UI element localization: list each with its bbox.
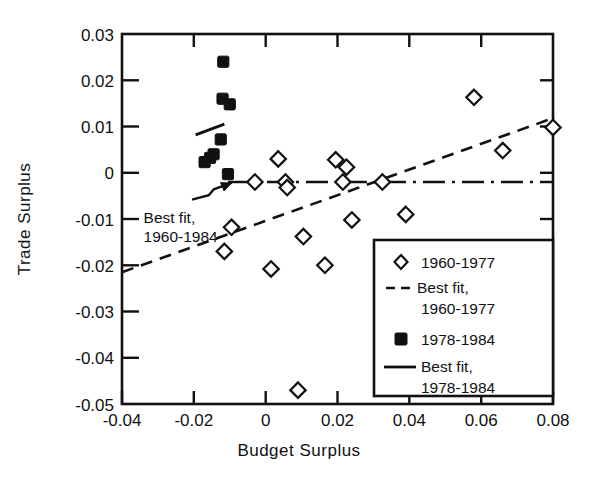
data-point-square bbox=[215, 134, 226, 145]
legend-glyph-filled-square bbox=[395, 333, 407, 345]
y-axis-title: Trade Surplus bbox=[15, 163, 34, 276]
y-tick-label-0.02: 0.02 bbox=[81, 72, 114, 91]
legend: 1960-1977 Best fit, 1960-1977 1978-1984 … bbox=[374, 240, 553, 396]
x-tick-label-0.08: 0.08 bbox=[536, 411, 569, 430]
data-point-square bbox=[224, 99, 235, 110]
y-tick-label-0.03: 0.03 bbox=[81, 26, 114, 45]
annotation-line2: 1960-1984 bbox=[144, 228, 219, 245]
legend-label-1960-1977: 1960-1977 bbox=[421, 254, 495, 271]
y-tick-label-0.01: 0.01 bbox=[81, 118, 114, 137]
x-axis-title: Budget Surplus bbox=[237, 441, 360, 460]
x-tick-label-0: 0 bbox=[261, 411, 270, 430]
legend-label-bestfit-1960-1977-line1: Best fit, bbox=[417, 279, 469, 296]
x-tick-label-0.06: 0.06 bbox=[465, 411, 498, 430]
x-tick-label-0.04: 0.04 bbox=[393, 411, 426, 430]
data-point-square bbox=[199, 157, 210, 168]
data-point-square bbox=[222, 169, 233, 180]
annotation-line1: Best fit, bbox=[144, 209, 196, 226]
y-tick-label--0.05: -0.05 bbox=[75, 396, 114, 415]
y-tick-label--0.03: -0.03 bbox=[75, 303, 114, 322]
legend-label-1978-1984: 1978-1984 bbox=[421, 331, 496, 348]
legend-label-bestfit-1978-1984-line2: 1978-1984 bbox=[421, 379, 496, 396]
x-tick-label--0.02: -0.02 bbox=[174, 411, 213, 430]
y-tick-label--0.01: -0.01 bbox=[75, 211, 114, 230]
y-tick-label--0.04: -0.04 bbox=[75, 349, 114, 368]
legend-label-bestfit-1978-1984-line1: Best fit, bbox=[421, 358, 473, 375]
y-tick-label--0.02: -0.02 bbox=[75, 257, 114, 276]
data-point-square bbox=[218, 56, 229, 67]
legend-label-bestfit-1960-1977-line2: 1960-1977 bbox=[421, 300, 495, 317]
y-tick-label-0: 0 bbox=[105, 164, 114, 183]
figure-scatter-budget-vs-trade-surplus: -0.04 -0.02 0 0.02 0.04 0.06 0.08 0.03 0… bbox=[0, 0, 600, 486]
x-tick-label-0.02: 0.02 bbox=[321, 411, 354, 430]
chart-canvas: -0.04 -0.02 0 0.02 0.04 0.06 0.08 0.03 0… bbox=[0, 0, 600, 486]
